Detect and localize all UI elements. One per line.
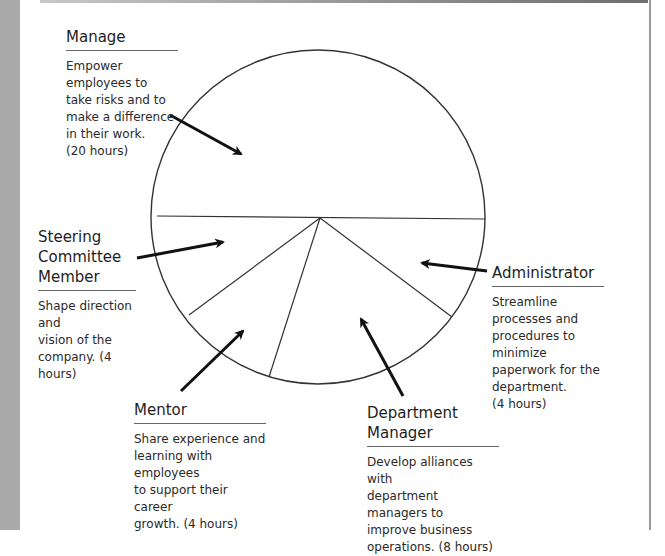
callout-description: Develop alliances with department manage…	[367, 454, 499, 556]
callout-description: Share experience and learning with emplo…	[134, 431, 266, 533]
callout-administrator: Administrator Streamline processes and p…	[492, 263, 604, 413]
callout-department-manager: Department Manager Develop alliances wit…	[367, 403, 499, 556]
callout-title: Steering Committee Member	[38, 227, 136, 291]
callout-title: Manage	[66, 27, 178, 51]
callout-description: Shape direction and vision of the compan…	[38, 298, 136, 383]
callout-manage: Manage Empower employees to take risks a…	[66, 27, 178, 160]
callout-title: Mentor	[134, 400, 266, 424]
callout-mentor: Mentor Share experience and learning wit…	[134, 400, 266, 533]
callout-title: Administrator	[492, 263, 604, 287]
callout-description: Empower employees to take risks and to m…	[66, 58, 178, 160]
callout-steering-committee-member: Steering Committee Member Shape directio…	[38, 227, 136, 383]
callout-title: Department Manager	[367, 403, 499, 447]
callout-description: Streamline processes and procedures to m…	[492, 294, 604, 413]
